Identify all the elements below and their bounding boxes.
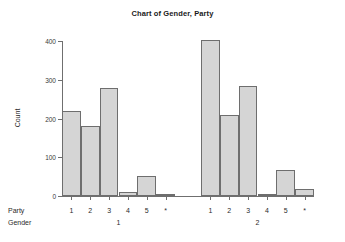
party-tick-label: 4 — [265, 207, 269, 214]
bar — [239, 86, 258, 196]
x-axis-tick — [229, 196, 230, 200]
party-tick-label: 2 — [88, 207, 92, 214]
bar — [201, 40, 220, 196]
chart-container: Chart of Gender, Party Count 01002003004… — [0, 0, 345, 242]
bar — [295, 189, 314, 196]
bar — [137, 176, 156, 196]
bar — [276, 170, 295, 196]
gender-group-label: 2 — [256, 219, 260, 226]
bar — [62, 111, 81, 196]
row-label-party: Party — [8, 207, 24, 214]
plot-area: 0100200300400 — [62, 41, 314, 196]
party-tick-label: 4 — [126, 207, 130, 214]
party-tick-label: * — [164, 207, 167, 214]
bar — [81, 126, 100, 196]
y-axis-tick-label: 100 — [45, 154, 56, 161]
party-tick-label: 5 — [145, 207, 149, 214]
party-tick-label: * — [303, 207, 306, 214]
party-tick-label: 1 — [208, 207, 212, 214]
y-axis-tick-label: 400 — [45, 38, 56, 45]
x-axis-tick — [267, 196, 268, 200]
x-axis-tick — [147, 196, 148, 200]
gender-group-label: 1 — [117, 219, 121, 226]
x-axis-tick — [71, 196, 72, 200]
party-tick-label: 5 — [284, 207, 288, 214]
x-axis-tick — [305, 196, 306, 200]
x-axis-tick — [248, 196, 249, 200]
party-tick-label: 2 — [227, 207, 231, 214]
chart-title: Chart of Gender, Party — [0, 9, 345, 18]
x-axis-tick — [109, 196, 110, 200]
party-tick-label: 3 — [107, 207, 111, 214]
bar — [220, 115, 239, 196]
x-axis-tick — [128, 196, 129, 200]
x-axis-tick — [210, 196, 211, 200]
bar — [100, 88, 119, 197]
y-axis-tick — [58, 41, 62, 42]
x-axis-tick — [90, 196, 91, 200]
party-tick-label: 3 — [246, 207, 250, 214]
y-axis-tick-label: 0 — [52, 193, 56, 200]
x-axis-line — [62, 196, 314, 197]
y-axis-tick — [58, 196, 62, 197]
party-tick-label: 1 — [69, 207, 73, 214]
y-axis-tick — [58, 80, 62, 81]
x-axis-tick — [166, 196, 167, 200]
y-axis-tick-label: 300 — [45, 76, 56, 83]
y-axis-title: Count — [14, 109, 21, 128]
x-axis-tick — [286, 196, 287, 200]
y-axis-tick-label: 200 — [45, 115, 56, 122]
row-label-gender: Gender — [8, 219, 31, 226]
